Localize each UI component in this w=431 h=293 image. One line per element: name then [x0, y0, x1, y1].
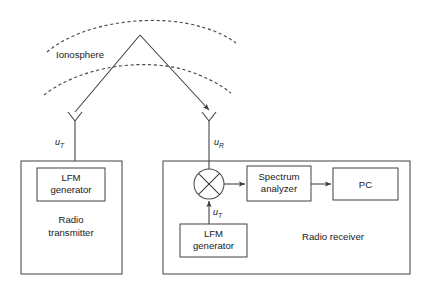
block-diagram: Ionosphere uT uR LFM generator	[0, 0, 431, 293]
uplink-ray	[75, 35, 140, 112]
radio-transmitter-label-line1: Radio	[58, 214, 83, 225]
receiver-antenna-v-left	[202, 112, 209, 121]
transmitter-antenna-v-right	[75, 112, 82, 121]
tx-lfm-generator-label-line2: generator	[50, 184, 92, 195]
spectrum-analyzer-label-line1: Spectrum	[258, 171, 299, 182]
local-oscillator-signal-label: uT	[213, 207, 223, 219]
transmitter-antenna-v-left	[68, 112, 75, 121]
ionosphere-label: Ionosphere	[56, 49, 104, 60]
rx-lfm-generator-label-line2: generator	[193, 240, 235, 251]
ionosphere-lower-arc	[44, 65, 231, 95]
radio-receiver-label: Radio receiver	[302, 231, 365, 242]
radio-transmitter-region: LFM generator Radio transmitter	[21, 161, 122, 274]
rx-lfm-generator-label-line1: LFM	[204, 228, 223, 239]
radio-transmitter-label-line2: transmitter	[48, 227, 94, 238]
uplink-signal-label: uT	[55, 137, 65, 149]
propagation-path	[75, 35, 209, 112]
downlink-ray	[140, 35, 209, 110]
radio-receiver-region: uT Spectrum analyzer PC LFM generator Ra…	[163, 161, 410, 274]
tx-lfm-generator-label-line1: LFM	[61, 172, 80, 183]
receiver-antenna-v-right	[209, 112, 216, 121]
pc-label: PC	[359, 179, 372, 190]
diagram-canvas: Ionosphere uT uR LFM generator	[0, 0, 431, 293]
spectrum-analyzer-label-line2: analyzer	[261, 183, 298, 194]
mixer-symbol	[194, 169, 224, 199]
downlink-signal-label: uR	[214, 137, 224, 149]
transmitter-antenna	[68, 112, 82, 161]
